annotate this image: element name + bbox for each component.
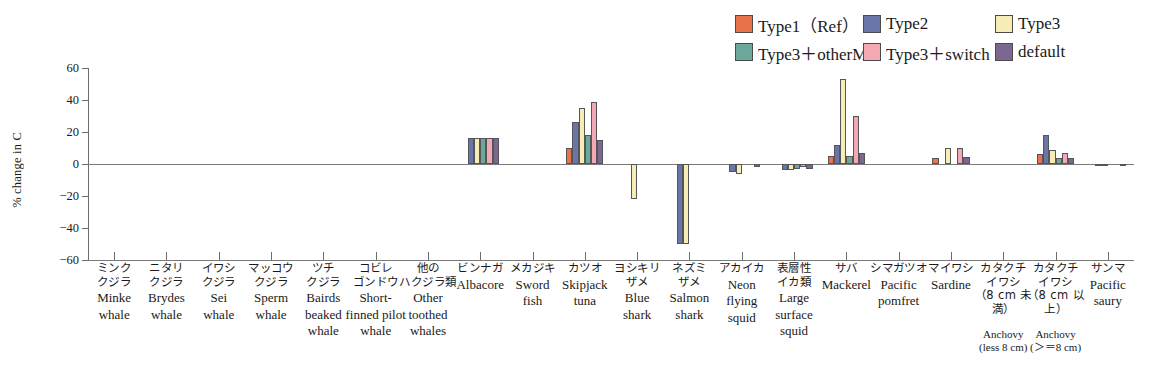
- bar: [859, 153, 865, 164]
- legend-swatch-type1-ref: [735, 15, 753, 33]
- category-jp-line: コビレ: [346, 262, 406, 276]
- y-tick: [82, 132, 88, 133]
- x-category-label: ニタリクジラBrydeswhale: [136, 262, 196, 322]
- category-en-line: Brydes: [136, 291, 196, 306]
- bar-group: [723, 68, 760, 260]
- category-sub-line: Anchovy: [1025, 328, 1085, 341]
- x-category-label: カタクチイワシ（8 cm 以上）Anchovy(＞＝8 cm): [1025, 262, 1085, 354]
- x-category-label: マイワシSardine: [921, 262, 981, 292]
- category-en-line: Other: [398, 291, 458, 306]
- category-en-line: toothed: [398, 308, 458, 323]
- x-tick: [794, 252, 795, 260]
- y-tick-label: 0: [73, 157, 79, 172]
- label-spacer: [973, 316, 1033, 328]
- category-en-line: Mackerel: [816, 278, 876, 293]
- x-axis-line: [88, 260, 1134, 261]
- bar: [1068, 158, 1074, 164]
- bar: [840, 79, 846, 164]
- category-jp-line: 他の: [398, 262, 458, 276]
- category-jp-line: イワシ: [973, 276, 1033, 290]
- category-jp-line: ザメ: [607, 276, 667, 290]
- x-tick: [1108, 252, 1109, 260]
- category-jp-line: クジラ: [189, 276, 249, 290]
- bar: [932, 158, 938, 164]
- y-tick-label: −20: [59, 189, 79, 204]
- bar-group: [305, 68, 342, 260]
- category-jp-line: ビンナガ: [450, 262, 510, 276]
- category-en-line: fish: [502, 294, 562, 309]
- category-jp-line: サバ: [816, 262, 876, 276]
- category-en-line: Sardine: [921, 278, 981, 293]
- x-tick: [742, 252, 743, 260]
- bar-group: [566, 68, 603, 260]
- bar-group: [462, 68, 499, 260]
- bar-group: [775, 68, 812, 260]
- legend-swatch-type3: [995, 15, 1013, 33]
- category-jp-line: ツチ: [293, 262, 353, 276]
- x-tick: [376, 252, 377, 260]
- category-jp-line: ハクジラ類: [398, 276, 458, 290]
- category-jp-line: ザメ: [659, 276, 719, 290]
- x-category-label: カタクチイワシ（8 cm 未満）Anchovy(less 8 cm): [973, 262, 1033, 354]
- category-en-line: squid: [764, 324, 824, 339]
- category-en-line: saury: [1078, 294, 1138, 309]
- chart-legend: Type1（Ref）Type2Type3Type3＋otherMType3＋sw…: [735, 10, 1145, 66]
- category-jp-line: マッコウ: [241, 262, 301, 276]
- legend-item-default[interactable]: default: [995, 42, 1145, 62]
- category-jp-line: ニタリ: [136, 262, 196, 276]
- legend-item-type3-switch[interactable]: Type3＋switch: [863, 40, 995, 65]
- category-en-line: Sei: [189, 291, 249, 306]
- bar: [631, 164, 637, 199]
- category-jp-line: ゴンドウ: [346, 276, 406, 290]
- category-en-line: whale: [293, 324, 353, 339]
- x-category-label: 他のハクジラ類Othertoothedwhales: [398, 262, 458, 339]
- legend-item-type3-otherm[interactable]: Type3＋otherM: [735, 40, 863, 65]
- x-category-label: メカジキSwordfish: [502, 262, 562, 309]
- bar-chart: Type1（Ref）Type2Type3Type3＋otherMType3＋sw…: [0, 0, 1151, 369]
- plot-area: 6040200−20−40−60: [88, 68, 1134, 260]
- legend-item-type3[interactable]: Type3: [995, 14, 1145, 34]
- category-jp-line: カタクチ: [973, 262, 1033, 276]
- x-tick: [1003, 252, 1004, 260]
- category-sub-line: (＞＝8 cm): [1025, 341, 1085, 354]
- category-en-line: Salmon: [659, 291, 719, 306]
- bar: [963, 157, 969, 164]
- x-tick: [951, 252, 952, 260]
- bar: [1120, 164, 1126, 166]
- category-en-line: Pacific: [869, 278, 929, 293]
- x-tick: [533, 252, 534, 260]
- y-tick-label: 60: [67, 61, 80, 76]
- y-tick: [82, 260, 88, 261]
- category-en-line: whales: [398, 324, 458, 339]
- x-category-label: コビレゴンドウShort-finned pilotwhale: [346, 262, 406, 339]
- bar-group: [880, 68, 917, 260]
- category-en-line: Bairds: [293, 291, 353, 306]
- bar: [1102, 164, 1108, 166]
- category-en-line: Albacore: [450, 278, 510, 293]
- category-en-line: pomfret: [869, 294, 929, 309]
- bar: [683, 164, 689, 244]
- legend-item-type1-ref[interactable]: Type1（Ref）: [735, 12, 863, 37]
- category-en-line: Sword: [502, 278, 562, 293]
- x-tick: [689, 252, 690, 260]
- category-jp-line: シマガツオ: [869, 262, 929, 276]
- y-tick: [82, 100, 88, 101]
- category-sub-line: (less 8 cm): [973, 341, 1033, 354]
- legend-item-type2[interactable]: Type2: [863, 14, 995, 34]
- zero-baseline: [88, 164, 1134, 165]
- x-tick: [114, 252, 115, 260]
- x-tick: [219, 252, 220, 260]
- category-en-line: shark: [607, 308, 667, 323]
- category-jp-line: クジラ: [84, 276, 144, 290]
- category-jp-line: カツオ: [555, 262, 615, 276]
- y-tick-label: 20: [67, 125, 80, 140]
- y-tick: [82, 196, 88, 197]
- category-jp-line: クジラ: [293, 276, 353, 290]
- x-tick: [585, 252, 586, 260]
- category-jp-line: カタクチ: [1025, 262, 1085, 276]
- category-en-line: squid: [712, 311, 772, 326]
- label-spacer: [1025, 316, 1085, 328]
- x-category-label: サンマPacificsaury: [1078, 262, 1138, 309]
- bar: [754, 164, 760, 167]
- category-en-line: tuna: [555, 294, 615, 309]
